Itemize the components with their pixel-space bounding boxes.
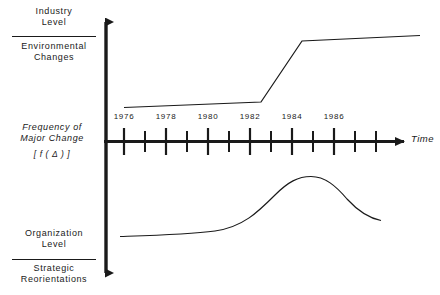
x-tick-label-1980: 1980	[191, 112, 225, 121]
axis-title-time: Time	[411, 133, 434, 144]
x-tick-label-1976: 1976	[107, 112, 141, 121]
series-environmental-changes-line	[124, 36, 420, 108]
chart-plot-area	[0, 0, 440, 295]
x-tick-label-1986: 1986	[317, 112, 351, 121]
x-tick-label-1982: 1982	[233, 112, 267, 121]
figure-container: Industry Level Environmental Changes Fre…	[0, 0, 440, 295]
x-tick-label-1978: 1978	[149, 112, 183, 121]
series-strategic-reorientations-curve	[120, 177, 381, 237]
x-tick-label-1984: 1984	[275, 112, 309, 121]
